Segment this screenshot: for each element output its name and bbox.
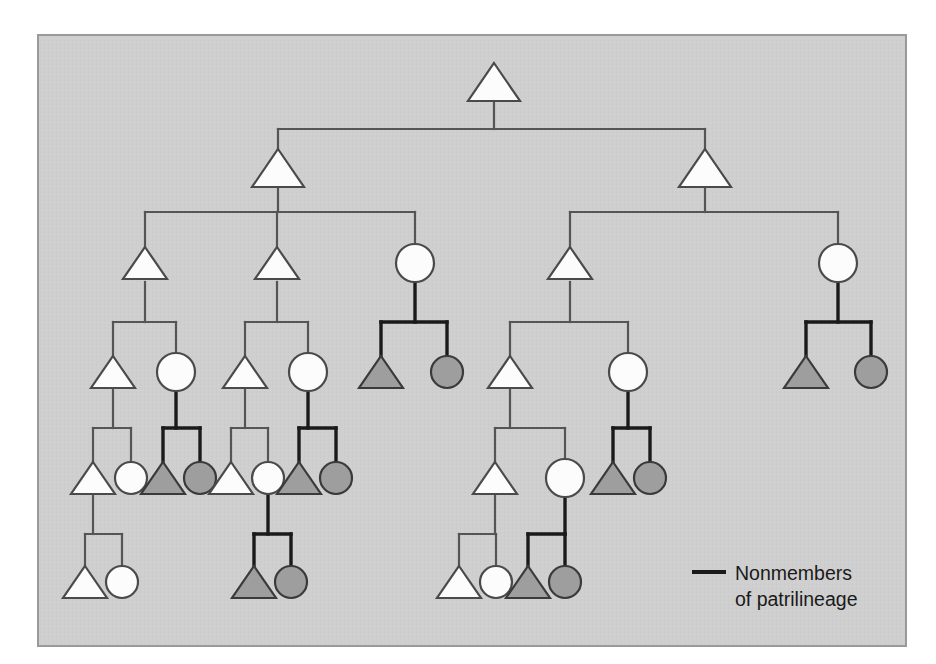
female-member-node[interactable] — [157, 353, 195, 391]
female-member-node[interactable] — [819, 244, 857, 282]
female-member-node[interactable] — [396, 244, 434, 282]
circle-icon[interactable] — [320, 462, 352, 494]
female-nonmember-node[interactable] — [634, 462, 666, 494]
circle-icon[interactable] — [819, 244, 857, 282]
legend-label-line2: of patrilineage — [735, 588, 858, 610]
kinship-diagram: Nonmembers of patrilineage — [0, 0, 936, 664]
circle-icon[interactable] — [431, 356, 463, 388]
circle-icon[interactable] — [609, 353, 647, 391]
female-member-node[interactable] — [289, 353, 327, 391]
circle-icon[interactable] — [396, 244, 434, 282]
circle-icon[interactable] — [157, 353, 195, 391]
legend-label-line1: Nonmembers — [735, 562, 852, 584]
circle-icon[interactable] — [546, 459, 584, 497]
circle-icon[interactable] — [855, 356, 887, 388]
circle-icon[interactable] — [106, 566, 138, 598]
female-nonmember-node[interactable] — [431, 356, 463, 388]
circle-icon[interactable] — [275, 566, 307, 598]
circle-icon[interactable] — [115, 462, 147, 494]
diagram-stage: Nonmembers of patrilineage — [0, 0, 936, 664]
female-member-node[interactable] — [115, 462, 147, 494]
circle-icon[interactable] — [634, 462, 666, 494]
circle-icon[interactable] — [549, 566, 581, 598]
circle-icon[interactable] — [480, 566, 512, 598]
female-member-node[interactable] — [546, 459, 584, 497]
diagram-panel — [38, 35, 906, 646]
circle-icon[interactable] — [289, 353, 327, 391]
female-nonmember-node[interactable] — [855, 356, 887, 388]
female-nonmember-node[interactable] — [320, 462, 352, 494]
female-member-node[interactable] — [480, 566, 512, 598]
female-member-node[interactable] — [609, 353, 647, 391]
female-nonmember-node[interactable] — [275, 566, 307, 598]
female-nonmember-node[interactable] — [549, 566, 581, 598]
female-member-node[interactable] — [106, 566, 138, 598]
